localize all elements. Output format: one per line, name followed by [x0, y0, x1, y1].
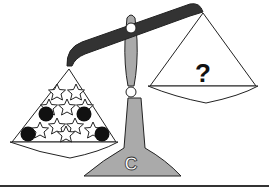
question-mark: ?	[195, 58, 211, 88]
right-pan: ?	[148, 13, 258, 103]
base-label: C	[125, 154, 138, 174]
pivot-top	[126, 23, 136, 33]
pivot-bottom	[126, 87, 136, 97]
left-pan	[10, 69, 118, 158]
balance-scale-diagram: ? C	[0, 0, 269, 189]
ground-line	[0, 185, 269, 187]
